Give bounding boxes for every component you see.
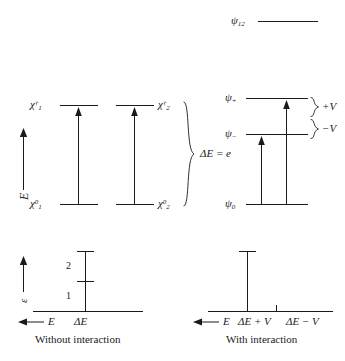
energy-level-diagram-figure: E χ†1 χ01 χ†2 χ02 ΔE = e (0, 0, 345, 361)
right-spectrum-peak-delta-e-minus-v (276, 305, 277, 311)
splitting-label-minus-v: −V (322, 123, 336, 134)
right-spectrum-baseline (208, 311, 333, 312)
psi-subscript: − (232, 133, 237, 141)
right-spectrum-axis-label-e: E (223, 316, 230, 327)
psi-symbol: ψ (225, 127, 232, 139)
delta-e-brace (182, 100, 196, 211)
left-spectrum-axis-label-e: E (48, 316, 55, 327)
level-label-chi-1-ground: χ01 (30, 198, 42, 211)
level-label-chi-2-excited: χ†2 (158, 99, 170, 112)
level-line-chi-1-excited (60, 105, 98, 106)
left-spectrum-scale-label-2: 2 (66, 261, 71, 271)
left-spectrum-axis-arrow (18, 317, 44, 327)
delta-e-equals-e-label: ΔE = e (200, 148, 231, 159)
transition-arrow-chi-2 (129, 107, 140, 204)
chi-subscript: 1 (38, 104, 42, 112)
right-spectrum-peak-cap (239, 251, 256, 252)
level-label-chi-1-excited: χ†1 (30, 99, 42, 112)
level-label-psi-minus: ψ− (225, 128, 237, 141)
left-panel-caption: Without interaction (35, 334, 120, 345)
right-spectrum-peak-delta-e-plus-v (247, 251, 248, 311)
intensity-axis-arrow (18, 256, 29, 292)
chi-subscript: 2 (166, 203, 170, 211)
intensity-axis-label: ε (18, 299, 29, 303)
level-label-chi-2-ground: χ02 (158, 198, 170, 211)
level-line-chi-2-excited (116, 105, 154, 106)
chi-subscript: 2 (166, 104, 170, 112)
right-spectrum-peak-label-plus: ΔE + V (238, 316, 271, 327)
level-line-psi-plus (246, 98, 308, 99)
left-spectrum-peak-label: ΔE (74, 316, 87, 327)
splitting-label-plus-v: +V (322, 101, 336, 112)
right-panel-caption: With interaction (226, 334, 297, 345)
energy-axis-label: E (18, 193, 30, 200)
level-label-psi-0: ψ0 (225, 198, 235, 211)
right-spectrum-axis-arrow (193, 317, 219, 327)
left-spectrum-scale-label-1: 1 (66, 291, 71, 301)
psi-symbol: ψ (231, 14, 238, 26)
level-line-chi-1-ground (60, 204, 98, 205)
psi-symbol: ψ (225, 197, 232, 209)
level-label-psi-12: ψ12 (231, 15, 245, 28)
level-line-psi-minus (246, 134, 308, 135)
splitting-brace-minus-v (309, 118, 320, 143)
psi-subscript: 12 (238, 20, 245, 28)
left-spectrum-tick-2 (77, 251, 94, 252)
transition-arrow-chi-1 (73, 107, 84, 204)
psi-subscript: 0 (232, 203, 236, 211)
energy-axis-arrow (18, 128, 29, 190)
right-spectrum-peak-label-minus: ΔE − V (286, 316, 319, 327)
psi-subscript: + (232, 97, 237, 105)
level-line-psi-12 (258, 21, 318, 22)
transition-arrow-psi-minus (256, 136, 267, 204)
level-line-psi-0 (246, 204, 308, 205)
level-line-chi-2-ground (116, 204, 154, 205)
left-spectrum-baseline (33, 311, 143, 312)
transition-arrow-psi-plus (281, 100, 292, 204)
left-spectrum-tick-1 (77, 281, 94, 282)
psi-symbol: ψ (225, 91, 232, 103)
level-label-psi-plus: ψ+ (225, 92, 237, 105)
chi-subscript: 1 (38, 203, 42, 211)
